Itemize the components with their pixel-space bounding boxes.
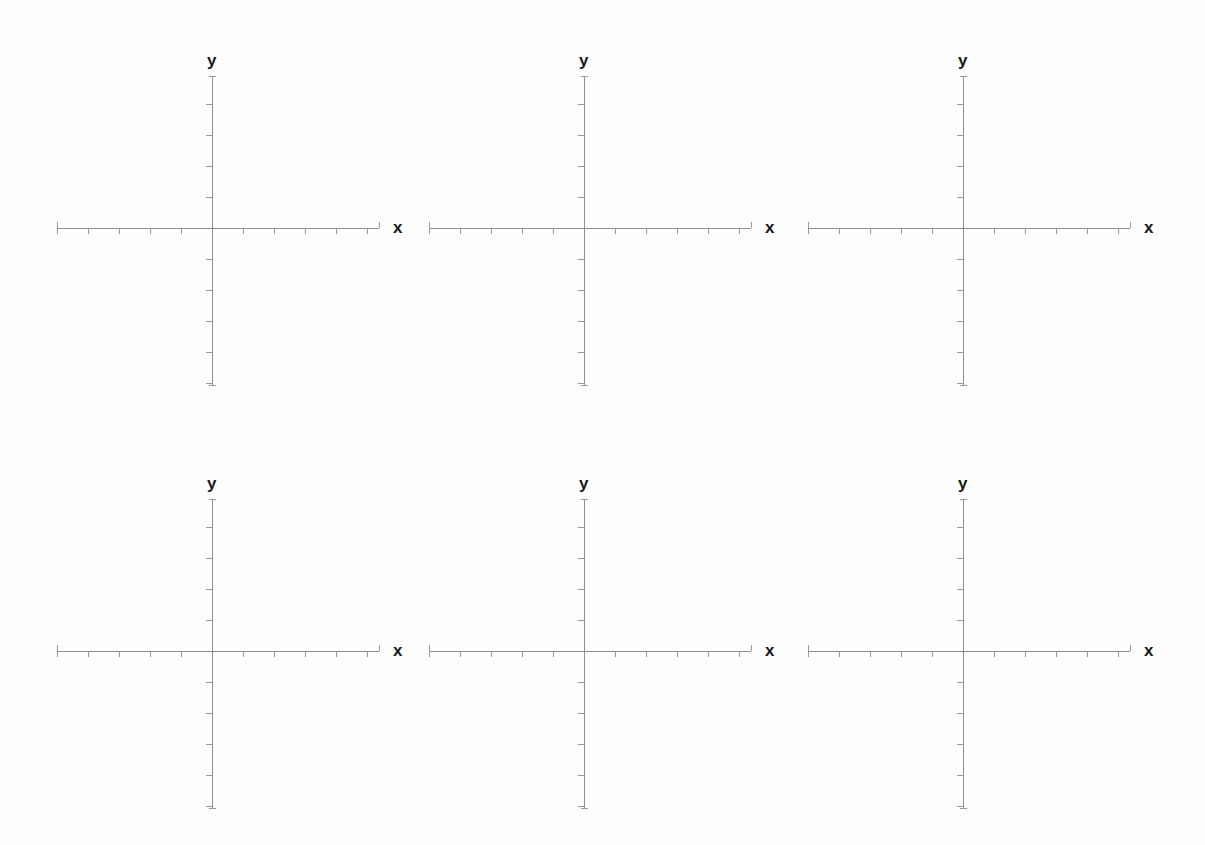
y-axis-tick: [206, 620, 212, 621]
y-axis-tick: [957, 290, 963, 291]
x-axis-tick: [522, 651, 523, 657]
x-axis-tick: [274, 651, 275, 657]
x-axis-line: [429, 228, 751, 229]
y-axis-tick: [957, 682, 963, 683]
y-axis-tick: [578, 135, 584, 136]
coordinate-panel-4[interactable]: xy: [0, 423, 402, 845]
coordinate-panel-3[interactable]: xy: [803, 0, 1205, 423]
x-axis-tick: [870, 651, 871, 657]
x-axis-tick: [1056, 228, 1057, 234]
x-axis-tick: [336, 651, 337, 657]
y-axis-top-endcap: [581, 76, 588, 77]
x-axis-tick: [739, 228, 740, 234]
y-axis-top-endcap: [960, 499, 967, 500]
y-axis-tick: [957, 558, 963, 559]
x-axis-tick: [460, 651, 461, 657]
y-axis-bottom-endcap: [960, 808, 967, 809]
x-axis-right-endcap: [379, 222, 380, 228]
x-axis-tick: [994, 228, 995, 234]
x-axis-right-endcap: [751, 222, 752, 228]
y-axis-tick: [957, 135, 963, 136]
x-axis-tick: [553, 651, 554, 657]
y-axis-tick: [206, 383, 212, 384]
y-axis-bottom-endcap: [209, 808, 216, 809]
coordinate-panel-6[interactable]: xy: [803, 423, 1205, 845]
x-axis-left-endcap: [57, 222, 58, 228]
x-axis-tick: [367, 228, 368, 234]
x-axis-label: x: [1144, 642, 1153, 659]
x-axis-tick: [646, 228, 647, 234]
y-axis-tick: [957, 527, 963, 528]
x-axis-left-endcap: [57, 645, 58, 651]
x-axis-tick: [901, 228, 902, 234]
x-axis-tick: [870, 228, 871, 234]
x-axis-tick: [367, 651, 368, 657]
y-axis-label: y: [207, 475, 216, 492]
axes-plot-6: xy: [803, 423, 1205, 845]
y-axis-tick: [578, 713, 584, 714]
x-axis-tick: [1087, 228, 1088, 234]
y-axis-label: y: [958, 475, 967, 492]
y-axis-tick: [957, 321, 963, 322]
x-axis-right-endcap: [379, 645, 380, 651]
y-axis-tick: [957, 744, 963, 745]
axes-plot-5: xy: [402, 423, 804, 845]
x-axis-left-endcap: [808, 645, 809, 651]
x-axis-tick: [839, 651, 840, 657]
x-axis-tick: [336, 228, 337, 234]
x-axis-tick: [88, 651, 89, 657]
coordinate-panel-2[interactable]: xy: [402, 0, 804, 423]
x-axis-tick: [305, 228, 306, 234]
x-axis-tick: [150, 228, 151, 234]
x-axis-tick: [150, 651, 151, 657]
y-axis-tick: [957, 620, 963, 621]
x-axis-tick: [429, 228, 430, 234]
y-axis-top-endcap: [581, 499, 588, 500]
x-axis-tick: [57, 228, 58, 234]
x-axis-tick: [491, 228, 492, 234]
y-axis-line: [963, 499, 964, 808]
y-axis-bottom-endcap: [960, 385, 967, 386]
y-axis-tick: [578, 682, 584, 683]
y-axis-tick: [578, 806, 584, 807]
x-axis-tick: [1118, 228, 1119, 234]
y-axis-tick: [578, 290, 584, 291]
y-axis-tick: [206, 558, 212, 559]
y-axis-line: [963, 76, 964, 385]
x-axis-tick: [932, 651, 933, 657]
y-axis-tick: [957, 104, 963, 105]
x-axis-label: x: [1144, 219, 1153, 236]
y-axis-tick: [206, 713, 212, 714]
x-axis-tick: [677, 651, 678, 657]
y-axis-tick: [578, 527, 584, 528]
y-axis-tick: [206, 352, 212, 353]
y-axis-tick: [578, 744, 584, 745]
y-axis-tick: [578, 166, 584, 167]
y-axis-tick: [957, 383, 963, 384]
axes-plot-2: xy: [402, 0, 804, 423]
x-axis-tick: [553, 228, 554, 234]
y-axis-tick: [206, 744, 212, 745]
x-axis-left-endcap: [429, 645, 430, 651]
coordinate-grid-worksheet: xy xy xy xy xy xy: [0, 0, 1205, 845]
x-axis-tick: [181, 651, 182, 657]
y-axis-tick: [206, 135, 212, 136]
y-axis-top-endcap: [960, 76, 967, 77]
y-axis-tick: [578, 321, 584, 322]
x-axis-tick: [522, 228, 523, 234]
y-axis-label: y: [579, 52, 588, 69]
x-axis-tick: [460, 228, 461, 234]
x-axis-tick: [615, 651, 616, 657]
coordinate-panel-1[interactable]: xy: [0, 0, 402, 423]
y-axis-tick: [957, 713, 963, 714]
axes-plot-3: xy: [803, 0, 1205, 423]
x-axis-tick: [429, 651, 430, 657]
y-axis-tick: [957, 166, 963, 167]
coordinate-panel-5[interactable]: xy: [402, 423, 804, 845]
y-axis-tick: [957, 806, 963, 807]
y-axis-tick: [206, 197, 212, 198]
y-axis-tick: [206, 589, 212, 590]
y-axis-line: [212, 76, 213, 385]
x-axis-tick: [901, 651, 902, 657]
y-axis-tick: [206, 166, 212, 167]
